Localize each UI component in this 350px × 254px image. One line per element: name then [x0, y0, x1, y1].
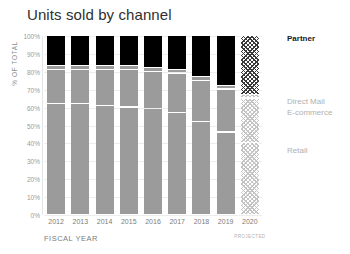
y-axis-tick-label: 60% [27, 104, 40, 111]
bar-2018[interactable] [192, 36, 210, 215]
bar-segment-directmail-2019 [217, 86, 235, 88]
bar-segment-retail-2015 [120, 108, 138, 214]
y-axis-tick-label: 90% [27, 50, 40, 57]
x-axis-tick-2014: 2014 [97, 218, 113, 225]
bar-segment-ecommerce-2015 [120, 70, 138, 106]
bar-segment-directmail-2013 [71, 66, 89, 68]
bar-2019[interactable] [217, 36, 235, 215]
bar-segment-partner-2018 [192, 36, 210, 76]
y-axis-tick-label: 20% [27, 176, 40, 183]
y-axis-tick-label: 80% [27, 68, 40, 75]
bar-segment-directmail-2018 [192, 77, 210, 79]
bar-segment-ecommerce-2012 [47, 70, 65, 103]
bar-segment-partner-2015 [120, 36, 138, 65]
legend-item-e-commerce[interactable]: E-commerce [287, 107, 332, 118]
bar-segment-partner-2020 [241, 36, 259, 94]
bar-segment-ecommerce-2018 [192, 81, 210, 121]
bar-2020[interactable] [241, 36, 259, 215]
y-axis-tick-label: 10% [27, 194, 40, 201]
bar-2012[interactable] [47, 36, 65, 215]
y-axis-tick-label: 100% [23, 33, 40, 40]
bar-segment-partner-2019 [217, 36, 235, 85]
x-axis-tick-2019: 2019 [218, 218, 234, 225]
x-axis-tick-2015: 2015 [121, 218, 137, 225]
chart-container: Units sold by channel % OF TOTAL 0%10%20… [0, 0, 350, 254]
chart-title: Units sold by channel [27, 6, 172, 23]
y-axis-line [42, 36, 43, 215]
bar-segment-directmail-2017 [168, 70, 186, 72]
gridline [44, 215, 262, 216]
bar-2013[interactable] [71, 36, 89, 215]
bar-segment-retail-2016 [144, 109, 162, 213]
y-axis-tick-label: 30% [27, 158, 40, 165]
bar-segment-retail-2017 [168, 113, 186, 214]
bar-2015[interactable] [120, 36, 138, 215]
bar-segment-ecommerce-2020 [241, 99, 259, 143]
bar-segment-retail-2012 [47, 104, 65, 214]
bar-segment-partner-2012 [47, 36, 65, 65]
x-axis-label: FISCAL YEAR [44, 234, 98, 243]
x-axis-tick-2018: 2018 [194, 218, 210, 225]
bar-segment-retail-2013 [71, 104, 89, 214]
bar-segment-partner-2013 [71, 36, 89, 65]
bar-segment-retail-2019 [217, 133, 235, 214]
bar-segment-partner-2016 [144, 36, 162, 67]
bar-segment-directmail-2012 [47, 66, 65, 68]
bar-segment-directmail-2015 [120, 66, 138, 68]
legend-item-partner[interactable]: Partner [287, 33, 315, 44]
bar-segment-directmail-2016 [144, 68, 162, 70]
y-axis-tick-label: 50% [27, 122, 40, 129]
bar-segment-retail-2014 [96, 106, 114, 214]
bar-segment-ecommerce-2014 [96, 70, 114, 105]
bar-segment-ecommerce-2016 [144, 72, 162, 108]
bar-segment-partner-2017 [168, 36, 186, 69]
bar-segment-ecommerce-2019 [217, 90, 235, 132]
legend-item-direct-mail[interactable]: Direct Mail [287, 96, 325, 107]
plot-area: 0%10%20%30%40%50%60%70%80%90%100% 201220… [44, 36, 262, 215]
bar-2016[interactable] [144, 36, 162, 215]
bar-segment-partner-2014 [96, 36, 114, 65]
x-axis-tick-2020: 2020 [242, 218, 258, 225]
x-axis-tick-2016: 2016 [145, 218, 161, 225]
y-axis-tick-label: 40% [27, 140, 40, 147]
bar-2017[interactable] [168, 36, 186, 215]
y-axis-tick-label: 0% [31, 212, 40, 219]
bar-2014[interactable] [96, 36, 114, 215]
bar-segment-retail-2018 [192, 122, 210, 214]
y-axis-tick-label: 70% [27, 86, 40, 93]
x-axis-tick-2017: 2017 [169, 218, 185, 225]
legend-item-retail[interactable]: Retail [287, 145, 307, 156]
projected-note: PROJECTED [234, 234, 265, 239]
bar-segment-retail-2020 [241, 143, 259, 213]
bar-segment-ecommerce-2013 [71, 70, 89, 103]
x-axis-tick-2012: 2012 [48, 218, 64, 225]
y-axis-label: % OF TOTAL [11, 24, 18, 104]
bar-segment-ecommerce-2017 [168, 74, 186, 112]
x-axis-tick-2013: 2013 [73, 218, 89, 225]
bar-segment-directmail-2014 [96, 66, 114, 68]
bar-segment-directmail-2020 [241, 95, 259, 97]
